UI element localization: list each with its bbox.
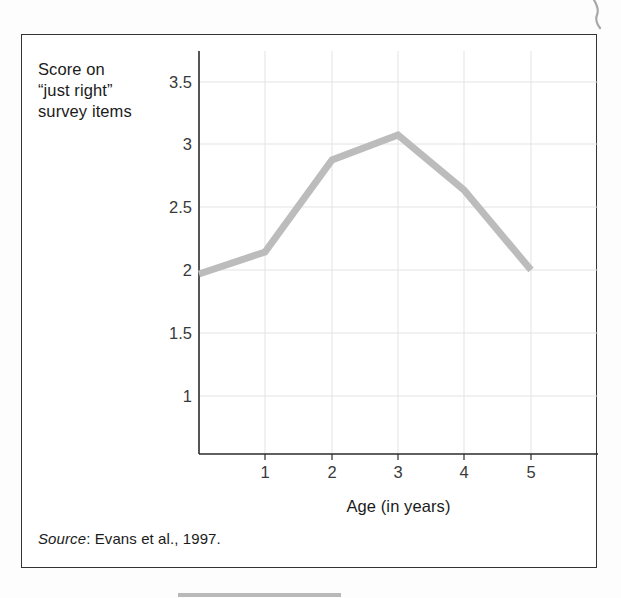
source-citation: : Evans et al., 1997. <box>86 530 221 547</box>
x-tick-3: 3 <box>393 463 402 482</box>
page-bottom-bar <box>178 593 341 597</box>
x-axis-tick-labels: 1 2 3 4 5 <box>22 35 598 569</box>
x-axis-title: Age (in years) <box>199 497 598 516</box>
chart-region: Score on “just right” survey items <box>22 35 596 567</box>
x-tick-2: 2 <box>327 463 336 482</box>
figure-frame: Score on “just right” survey items <box>21 34 597 568</box>
x-tick-5: 5 <box>526 463 535 482</box>
x-tick-4: 4 <box>459 463 468 482</box>
x-tick-1: 1 <box>260 463 269 482</box>
scanned-page: Score on “just right” survey items <box>0 0 621 598</box>
scan-artifact-mark <box>588 0 606 30</box>
source-label: Source <box>38 530 86 547</box>
source-note: Source: Evans et al., 1997. <box>38 530 221 547</box>
